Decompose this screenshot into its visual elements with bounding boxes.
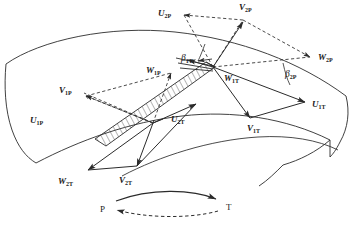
rotation-arc-solid — [116, 191, 216, 201]
vector-label-W2T: W2T — [58, 177, 73, 186]
vector-label-V1P: V1P — [59, 86, 72, 95]
vector-label-W1P: W1P — [146, 66, 161, 75]
vector-label-U2T: U2T — [171, 115, 185, 124]
velocity-triangle-station2-pitch — [184, 15, 310, 67]
rotation-label-P: P — [100, 205, 105, 214]
vector-label-W2P: W2P — [318, 53, 333, 62]
vector-label-W1T: W1T — [224, 74, 239, 83]
rotation-arc-dashed — [117, 210, 218, 217]
vector-label-V1T: V1T — [247, 124, 260, 133]
vector-label-U2P: U2P — [158, 9, 171, 18]
vector-label-U1T: U1T — [312, 100, 326, 109]
vector-label-V2T: V2T — [119, 176, 132, 185]
vector-label-V2P: V2P — [239, 3, 252, 12]
rotation-label-T: T — [226, 203, 232, 212]
angle-label-beta2P: β2P — [285, 70, 296, 80]
annulus-stream-surface — [5, 30, 348, 186]
angle-label-beta1T: β1T — [181, 54, 193, 64]
figure-canvas: U2P V2P W2P W1P V1P U1P W1T U1T V1T U2T … — [0, 0, 355, 232]
vector-label-U1P: U1P — [30, 116, 43, 125]
